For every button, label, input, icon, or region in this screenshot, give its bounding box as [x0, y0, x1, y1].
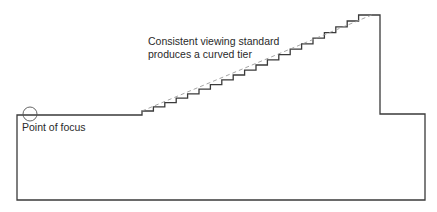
tier-label-line1: Consistent viewing standard: [148, 35, 279, 47]
focus-label: Point of focus: [22, 121, 86, 133]
tier-label-line2: produces a curved tier: [148, 48, 252, 60]
focus-point-circle: [23, 107, 37, 121]
sightline-dashed: [142, 14, 374, 111]
tier-section-diagram: Consistent viewing standard produces a c…: [0, 0, 437, 212]
